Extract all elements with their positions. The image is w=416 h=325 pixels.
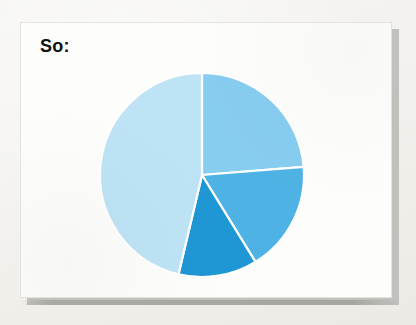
slide-canvas: So: bbox=[0, 0, 416, 325]
pie-slice-4[interactable] bbox=[100, 73, 202, 274]
pie-chart-svg bbox=[21, 23, 392, 298]
slide-card: So: bbox=[20, 22, 392, 298]
pie-slice-group bbox=[100, 73, 304, 277]
pie-slice-1[interactable] bbox=[202, 73, 304, 175]
pie-chart bbox=[21, 23, 392, 298]
